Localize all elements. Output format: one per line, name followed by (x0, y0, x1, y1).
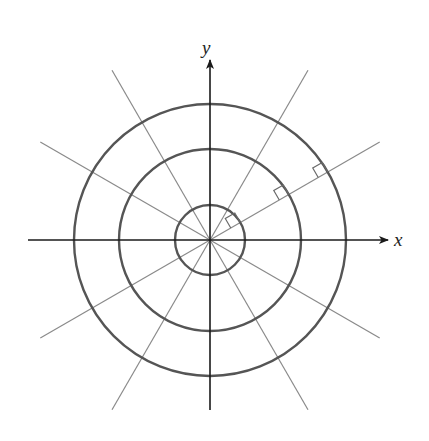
radial-line-60deg (210, 70, 308, 240)
x-axis-label: x (393, 229, 403, 250)
y-axis-label: y (200, 37, 211, 58)
radial-line-150deg (40, 142, 210, 240)
polar-grid-diagram: x y (0, 0, 429, 441)
right-angle-marks (225, 162, 327, 228)
radial-line-120deg (112, 70, 210, 240)
radial-line-30deg (210, 142, 380, 240)
radial-line-240deg (112, 240, 210, 410)
radial-line-330deg (210, 240, 380, 338)
radial-line-210deg (40, 240, 210, 338)
radial-line-300deg (210, 240, 308, 410)
